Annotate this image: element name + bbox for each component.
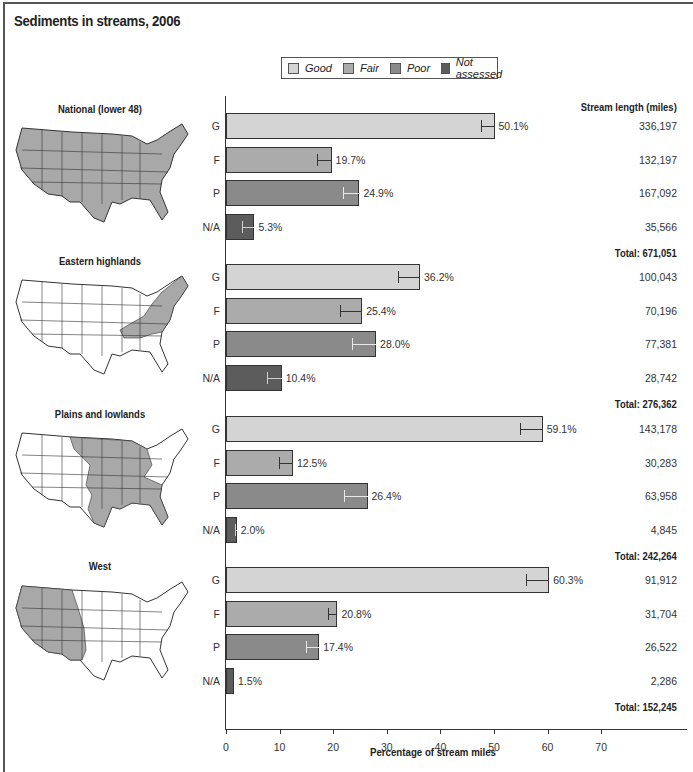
bar-category-label: G [190, 574, 220, 586]
stream-miles-total: Total: 152,245 [615, 701, 677, 713]
bar-value-label: 1.5% [238, 675, 262, 687]
stream-miles-value: 2,286 [651, 675, 677, 687]
stream-miles-value: 132,197 [639, 154, 677, 166]
bar-category-label: P [190, 641, 220, 653]
bar-value-label: 25.4% [366, 305, 396, 317]
x-tick [333, 729, 334, 734]
x-tick [601, 729, 602, 734]
stream-miles-value: 4,845 [651, 524, 677, 536]
x-axis-label: Percentage of stream miles [370, 746, 496, 758]
error-bar [526, 580, 549, 581]
bar-value-label: 2.0% [241, 524, 265, 536]
us-map-plains-lowlands-icon [12, 425, 192, 535]
bar-value-label: 60.3% [553, 574, 583, 586]
error-bar-cap [352, 338, 353, 350]
error-bar-cap [344, 490, 345, 502]
bar-value-label: 26.4% [372, 490, 402, 502]
bar-poor [226, 180, 359, 206]
error-bar-cap [242, 221, 243, 233]
fair-swatch-icon [343, 63, 354, 74]
bar-category-label: P [190, 338, 220, 350]
region-title-national: National (lower 48) [15, 103, 186, 115]
stream-miles-value: 70,196 [645, 305, 677, 317]
error-bar-cap [520, 423, 521, 435]
stream-miles-value: 31,704 [645, 608, 677, 620]
bar-good [226, 567, 549, 593]
stream-miles-value: 30,283 [645, 457, 677, 469]
bar-value-label: 24.9% [363, 187, 393, 199]
error-bar-cap [340, 305, 341, 317]
error-bar-cap [235, 524, 236, 536]
legend-label: Not assessed [456, 56, 505, 80]
error-bar-cap [398, 271, 399, 283]
x-tick [280, 729, 281, 734]
legend-label: Good [305, 62, 332, 74]
stream-miles-value: 91,912 [645, 574, 677, 586]
us-map-west-icon [12, 578, 192, 688]
us-map-eastern-highlands-icon [12, 272, 192, 382]
error-bar-cap [328, 608, 329, 620]
legend-item-fair: Fair [343, 62, 379, 74]
stream-miles-value: 100,043 [639, 271, 677, 283]
stream-miles-value: 143,178 [639, 423, 677, 435]
x-tick [387, 729, 388, 734]
error-bar [267, 378, 282, 379]
x-tick-label: 20 [327, 741, 339, 753]
x-tick-label: 60 [542, 741, 554, 753]
us-map-national-icon [12, 120, 192, 230]
error-bar [343, 193, 360, 194]
error-bar [242, 227, 254, 228]
region-title-west: West [15, 560, 186, 572]
stream-length-header: Stream length (miles) [581, 101, 677, 113]
legend-item-good: Good [288, 62, 332, 74]
bar-good [226, 113, 495, 139]
x-tick [494, 729, 495, 734]
x-tick-label: 70 [595, 741, 607, 753]
good-swatch-icon [288, 63, 299, 74]
bar-category-label: G [190, 271, 220, 283]
legend-label: Fair [360, 62, 379, 74]
bar-good [226, 264, 420, 290]
error-bar-cap [343, 187, 344, 199]
error-bar-cap [526, 574, 527, 586]
bar-value-label: 12.5% [297, 457, 327, 469]
poor-swatch-icon [390, 63, 401, 74]
bar-category-label: P [190, 490, 220, 502]
x-tick [548, 729, 549, 734]
bar-fair [226, 601, 337, 627]
bar-category-label: F [190, 457, 220, 469]
bar-value-label: 50.1% [499, 120, 529, 132]
error-bar [306, 647, 319, 648]
error-bar [344, 496, 367, 497]
error-bar-cap [267, 372, 268, 384]
bar-category-label: F [190, 154, 220, 166]
error-bar-cap [317, 154, 318, 166]
stream-miles-total: Total: 242,264 [615, 550, 677, 562]
stream-miles-value: 26,522 [645, 641, 677, 653]
bar-value-label: 10.4% [286, 372, 316, 384]
bar-category-label: N/A [190, 524, 220, 536]
region-title-eastern-highlands: Eastern highlands [15, 255, 186, 267]
legend-item-not-assessed: Not assessed [441, 56, 504, 80]
bar-category-label: P [190, 187, 220, 199]
bar-not-assessed [226, 668, 234, 694]
bar-value-label: 59.1% [547, 423, 577, 435]
x-axis [225, 729, 687, 730]
stream-miles-total: Total: 671,051 [615, 247, 677, 259]
error-bar [352, 344, 376, 345]
bar-value-label: 19.7% [336, 154, 366, 166]
x-tick-label: 10 [274, 741, 286, 753]
stream-miles-value: 336,197 [639, 120, 677, 132]
stream-miles-value: 28,742 [645, 372, 677, 384]
error-bar [317, 160, 331, 161]
error-bar [520, 429, 543, 430]
bar-value-label: 5.3% [258, 221, 282, 233]
error-bar-cap [279, 457, 280, 469]
bar-value-label: 28.0% [380, 338, 410, 350]
error-bar [279, 463, 293, 464]
error-bar [328, 614, 338, 615]
x-tick-label: 0 [223, 741, 229, 753]
legend-item-poor: Poor [390, 62, 430, 74]
x-tick [440, 729, 441, 734]
bar-value-label: 36.2% [424, 271, 454, 283]
